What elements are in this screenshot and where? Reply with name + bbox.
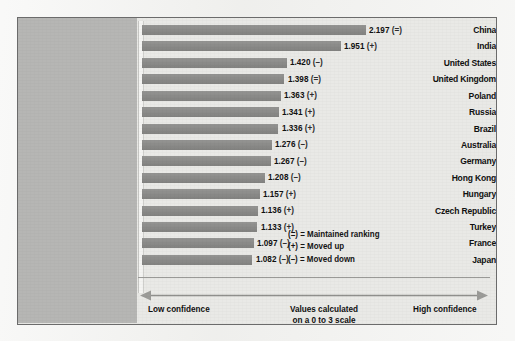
axis-separator-line <box>138 277 490 278</box>
bar <box>142 91 281 101</box>
bar-value-label: 1.363 (+) <box>284 90 317 101</box>
bar-value-label: 1.336 (+) <box>282 123 315 134</box>
bar-value-label: 1.951 (+) <box>344 41 377 52</box>
bar-value-label: 1.276 (–) <box>275 139 308 150</box>
bar <box>142 41 341 51</box>
bar-trend-marker: (–) <box>295 156 307 166</box>
bar-value-number: 1.097 <box>257 238 277 248</box>
bar-row: India1.951 (+) <box>18 41 496 57</box>
bar-value-number: 1.336 <box>282 123 302 133</box>
bar-value-number: 1.398 <box>288 74 308 84</box>
bar-trend-marker: (–) <box>296 139 308 149</box>
legend-item-moved-down: (–) = Moved down <box>288 253 469 265</box>
scale-note-line2: on a 0 to 3 scale <box>292 315 355 325</box>
bar-value-number: 1.136 <box>261 205 281 215</box>
bar-value-number: 1.157 <box>263 189 283 199</box>
bar-trend-marker: (+) <box>305 90 317 100</box>
bar-trend-marker: (=) <box>308 74 320 84</box>
category-label: China <box>387 25 496 35</box>
bar-value-number: 1.951 <box>344 41 364 51</box>
bar-trend-marker: (+) <box>282 205 294 215</box>
bar <box>142 206 258 216</box>
bar-value-number: 1.363 <box>284 90 304 100</box>
bar-value-number: 1.267 <box>274 156 294 166</box>
bar-trend-marker: (–) <box>289 172 301 182</box>
bar-trend-marker: (–) <box>310 57 322 67</box>
bar-row: United Kingdom1.398 (=) <box>18 74 496 90</box>
bar-value-label: 1.082 (–) <box>256 254 289 265</box>
bar-trend-marker: (+) <box>365 41 377 51</box>
axis-caption-low-confidence: Low confidence <box>148 304 210 315</box>
bar <box>142 58 287 68</box>
bar-row: Hungary1.157 (+) <box>18 189 496 205</box>
category-label: Hong Kong <box>387 173 496 183</box>
legend-item-maintained: (=) = Maintained ranking <box>288 228 469 240</box>
bar-value-label: 1.341 (+) <box>282 107 315 118</box>
category-label: Australia <box>387 140 496 150</box>
bar-row: Russia1.341 (+) <box>18 107 496 123</box>
bar-row: Australia1.276 (–) <box>18 140 496 156</box>
category-label: Germany <box>387 156 496 166</box>
bar-value-label: 2.197 (=) <box>369 25 402 36</box>
bar-value-label: 1.157 (+) <box>263 189 296 200</box>
category-label: Hungary <box>387 189 496 199</box>
bar <box>142 124 278 134</box>
axis-caption-scale-note: Values calculated on a 0 to 3 scale <box>262 304 386 325</box>
bar-row: Hong Kong1.208 (–) <box>18 173 496 189</box>
bar-value-number: 1.082 <box>256 254 276 264</box>
bar-row: Poland1.363 (+) <box>18 91 496 107</box>
bar <box>142 140 272 150</box>
bar-value-label: 1.420 (–) <box>290 57 323 68</box>
trend-legend: (=) = Maintained ranking (+) = Moved up … <box>288 228 478 265</box>
scale-note-line1: Values calculated <box>290 304 358 314</box>
bar <box>142 238 254 248</box>
bar-value-label: 1.208 (–) <box>268 172 301 183</box>
bar-row: Czech Republic1.136 (+) <box>18 206 496 222</box>
bar-row: United States1.420 (–) <box>18 58 496 74</box>
bar <box>142 74 284 84</box>
bar <box>142 255 252 265</box>
category-label: Czech Republic <box>387 206 496 216</box>
bar-trend-marker: (–) <box>276 254 288 264</box>
bar-trend-marker: (+) <box>302 107 314 117</box>
category-label: Brazil <box>387 124 496 134</box>
bar <box>142 156 271 166</box>
bar-value-number: 1.133 <box>261 222 281 232</box>
bar-trend-marker: (+) <box>284 189 296 199</box>
bar-value-number: 1.276 <box>275 139 295 149</box>
bar <box>142 189 260 199</box>
bar-value-number: 1.341 <box>282 107 302 117</box>
bar-row: China2.197 (=) <box>18 25 496 41</box>
bar <box>142 222 257 232</box>
bar-value-label: 1.136 (+) <box>261 205 294 216</box>
bar-value-label: 1.398 (=) <box>288 74 321 85</box>
bar-value-label: 1.097 (–) <box>257 238 290 249</box>
bar-value-number: 2.197 <box>369 25 389 35</box>
chart-figure-frame: China2.197 (=)India1.951 (+)United State… <box>17 17 497 325</box>
bar-value-label: 1.267 (–) <box>274 156 307 167</box>
bar <box>142 25 366 35</box>
bar-trend-marker: (=) <box>390 25 402 35</box>
bar-row: Brazil1.336 (+) <box>18 124 496 140</box>
confidence-scale-arrow-icon <box>140 290 488 301</box>
bar-row: Germany1.267 (–) <box>18 156 496 172</box>
category-label: India <box>387 41 496 51</box>
category-label: United Kingdom <box>387 74 496 84</box>
category-label: Russia <box>387 107 496 117</box>
legend-item-moved-up: (+) = Moved up <box>288 240 469 252</box>
scanned-page: China2.197 (=)India1.951 (+)United State… <box>0 0 515 341</box>
bar-value-number: 1.420 <box>290 57 310 67</box>
bar <box>142 107 279 117</box>
bar <box>142 173 265 183</box>
category-label: United States <box>387 58 496 68</box>
bar-trend-marker: (+) <box>302 123 314 133</box>
axis-caption-high-confidence: High confidence <box>413 304 477 315</box>
bar-value-number: 1.208 <box>268 172 288 182</box>
category-label: Poland <box>387 91 496 101</box>
